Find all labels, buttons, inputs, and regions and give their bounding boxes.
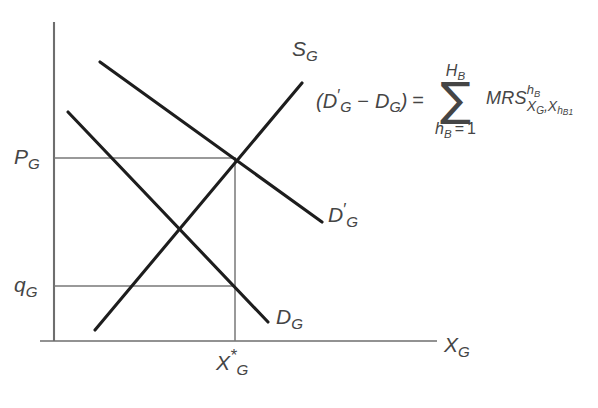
open-paren: ( [316,90,323,112]
shifted-demand-label-subscript: G [346,213,358,230]
summation-lower-limit: hB=1 [435,120,476,140]
sigma-icon: ∑ [440,80,471,120]
equilibrium-quantity-subscript: G [237,361,249,378]
summation-group: HB ∑ hB=1 [435,62,476,140]
figure-canvas: PG qG X*G XG SG D′G DG (D′G−DG) = HB ∑ h… [0,0,598,408]
mrs-scripts: hBXG,XhB1 [527,83,573,117]
demand-curve [68,112,268,322]
mrs-subscript: XG,XhB1 [527,99,573,117]
mrs-sub-second-sub-subscript: B1 [563,107,573,117]
close-paren: ) [401,90,408,112]
shifted-demand-curve-label: D′G [328,202,358,229]
quantity-tick-symbol: q [14,273,26,296]
summation-lower-var-subscript: B [444,128,452,140]
demand-curve-label-subscript: G [291,315,303,332]
mrs-sub-first-symbol: X [527,98,536,114]
demand-curve-label: DG [276,306,303,331]
quantity-tick-subscript: G [26,283,38,300]
summation-lower-var: h [435,120,444,137]
lhs-d-prime-symbol: D [323,90,337,112]
price-tick-label: PG [14,146,40,171]
mrs-superscript-subscript: B [534,89,540,99]
price-tick-symbol: P [14,145,28,168]
equation-block: (D′G−DG) = HB ∑ hB=1 MRShBXG,XhB1 [316,62,573,140]
x-axis-label-symbol: X [444,333,458,356]
x-axis-label: XG [444,334,470,359]
mrs-symbol: MRS [486,88,527,108]
lhs-d-subscript: G [389,99,400,115]
equation-left-hand-side: (D′G−DG) [316,87,407,115]
price-tick-subscript: G [28,155,40,172]
mrs-sub-second-symbol: X [548,98,557,114]
mrs-superscript-symbol: h [527,82,534,97]
equilibrium-quantity-symbol: X [216,351,230,374]
supply-curve-label: SG [292,38,318,63]
demand-curve-label-symbol: D [276,305,291,328]
summation-lower-equals: = [455,120,464,137]
minus-sign: − [357,90,369,112]
lhs-d-prime-subscript: G [340,99,351,115]
lhs-d-symbol: D [375,90,389,112]
mrs-sub-first-subscript: G [536,105,544,116]
supply-curve-label-symbol: S [292,37,306,60]
mrs-superscript: hB [527,83,540,100]
equals-sign: = [412,89,424,112]
equation-row: (D′G−DG) = HB ∑ hB=1 MRShBXG,XhB1 [316,62,573,140]
shifted-demand-curve [100,62,322,222]
quantity-tick-label: qG [14,274,37,299]
mrs-term: MRShBXG,XhB1 [486,82,573,116]
equilibrium-quantity-label: X*G [216,348,248,377]
x-axis-label-subscript: G [458,343,470,360]
supply-curve [95,83,302,330]
shifted-demand-label-symbol: D [328,203,343,226]
summation-lower-value: 1 [467,120,476,137]
